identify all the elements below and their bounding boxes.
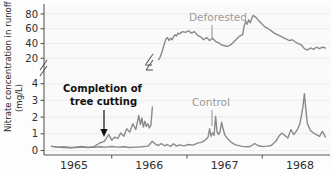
y-axis-title-line2: (mg/L) xyxy=(14,84,24,112)
x-tick-label: 1965 xyxy=(60,159,88,172)
nitrate-runoff-chart: 0123420406080 1965196619671968 Nitrate c… xyxy=(0,0,333,174)
y-tick-label: 3 xyxy=(32,95,38,106)
y-tick-label: 40 xyxy=(25,38,38,49)
y-tick-label: 80 xyxy=(25,9,38,20)
control-series-label: Control xyxy=(192,96,230,108)
x-tick-label: 1967 xyxy=(211,159,239,172)
plot-area-background xyxy=(44,4,330,155)
y-tick-label: 2 xyxy=(32,112,38,123)
y-tick-label: 60 xyxy=(25,23,38,34)
y-tick-label: 20 xyxy=(25,53,38,64)
y-tick-label: 4 xyxy=(32,78,38,89)
deforested-series-label: Deforested xyxy=(189,11,247,23)
y-tick-label: 0 xyxy=(32,145,38,156)
annotation-text-line1: Completion of xyxy=(63,83,143,94)
chart-canvas: 0123420406080 1965196619671968 Nitrate c… xyxy=(0,0,333,174)
x-tick-label: 1966 xyxy=(135,159,163,172)
y-tick-label: 1 xyxy=(32,128,38,139)
annotation-text-line2: tree cutting xyxy=(70,96,137,107)
y-axis-title-line1: Nitrate concentration in runoff xyxy=(3,0,13,132)
x-tick-label: 1968 xyxy=(286,159,314,172)
